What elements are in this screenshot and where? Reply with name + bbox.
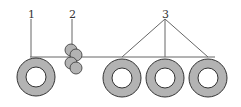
label-1: 1 [28, 8, 35, 21]
coil-3b [146, 59, 184, 97]
coil-3c [189, 59, 227, 97]
rollers-2 [65, 44, 82, 74]
diagram-canvas: 1 2 3 [0, 0, 241, 107]
label-3: 3 [162, 8, 169, 21]
label-2: 2 [69, 8, 76, 21]
leader-line-3c [165, 19, 208, 57]
leader-line-3a [122, 19, 165, 57]
coil-3a [103, 59, 141, 97]
coil-1 [17, 58, 55, 96]
